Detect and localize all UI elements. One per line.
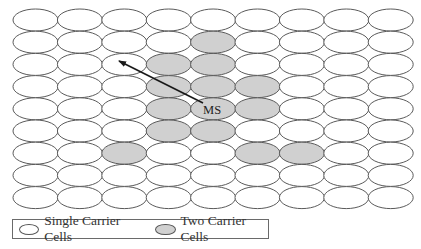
single-carrier-cell [102,31,147,53]
single-carrier-cell [13,9,58,31]
single-carrier-cell [235,31,280,53]
single-carrier-cell [13,98,58,120]
single-carrier-cell [13,164,58,186]
single-carrier-cell [324,31,369,53]
two-carrier-cell [235,76,280,98]
two-carrier-cell [146,98,191,120]
single-carrier-cell [279,187,324,209]
single-carrier-cell [279,164,324,186]
single-carrier-cell [57,98,102,120]
single-carrier-cell [57,9,102,31]
single-carrier-cell [191,9,236,31]
single-carrier-cell [368,76,413,98]
two-carrier-cell [146,53,191,75]
single-carrier-cell [191,187,236,209]
single-carrier-cell [57,187,102,209]
single-carrier-cell [324,120,369,142]
single-carrier-cell [13,31,58,53]
single-carrier-cell [279,9,324,31]
two-carrier-swatch-icon [155,224,175,235]
legend-item-single: Single Carrier Cells [19,213,141,245]
single-carrier-cell [102,187,147,209]
single-carrier-cell [13,120,58,142]
single-carrier-cell [235,9,280,31]
mobile-station-label: MS [203,103,221,117]
single-carrier-cell [368,31,413,53]
legend: Single Carrier Cells Two Carrier Cells [12,219,269,239]
cell-grid-diagram: MS [0,0,421,215]
single-carrier-cell [235,53,280,75]
single-carrier-cell [279,120,324,142]
single-carrier-cell [324,9,369,31]
single-carrier-cell [146,142,191,164]
single-carrier-cell [279,53,324,75]
single-carrier-cell [191,142,236,164]
single-carrier-cell [279,98,324,120]
single-carrier-cell [102,76,147,98]
single-carrier-cell [368,187,413,209]
single-carrier-cell [324,164,369,186]
single-carrier-cell [368,120,413,142]
single-carrier-cell [146,187,191,209]
single-carrier-cell [102,98,147,120]
single-carrier-cell [57,76,102,98]
single-carrier-cell [368,142,413,164]
two-carrier-cell [191,76,236,98]
two-carrier-cell [235,142,280,164]
single-carrier-cell [368,53,413,75]
legend-single-label: Single Carrier Cells [44,213,141,245]
single-carrier-cell [13,142,58,164]
single-carrier-cell [235,187,280,209]
single-carrier-cell [324,76,369,98]
single-carrier-cell [279,31,324,53]
single-carrier-cell [57,142,102,164]
single-carrier-cell [57,53,102,75]
single-carrier-cell [368,98,413,120]
single-carrier-cell [102,9,147,31]
two-carrier-cell [235,98,280,120]
two-carrier-cell [279,142,324,164]
single-carrier-cell [13,76,58,98]
single-carrier-cell [324,53,369,75]
single-carrier-cell [13,53,58,75]
single-carrier-cell [279,76,324,98]
two-carrier-cell [102,142,147,164]
single-carrier-cell [57,164,102,186]
single-carrier-cell [102,164,147,186]
single-carrier-cell [324,142,369,164]
legend-item-two: Two Carrier Cells [155,213,268,245]
single-carrier-cell [57,31,102,53]
legend-two-label: Two Carrier Cells [181,213,269,245]
single-carrier-cell [235,120,280,142]
single-carrier-cell [146,164,191,186]
single-carrier-cell [324,187,369,209]
single-carrier-cell [324,98,369,120]
single-carrier-cell [146,31,191,53]
two-carrier-cell [191,31,236,53]
single-carrier-cell [368,164,413,186]
single-carrier-cell [57,120,102,142]
single-carrier-cell [191,164,236,186]
single-carrier-cell [368,9,413,31]
two-carrier-cell [191,53,236,75]
single-carrier-cell [146,9,191,31]
single-carrier-cell [102,120,147,142]
single-carrier-swatch-icon [19,224,39,235]
two-carrier-cell [191,120,236,142]
single-carrier-cell [235,164,280,186]
single-carrier-cell [13,187,58,209]
two-carrier-cell [146,120,191,142]
